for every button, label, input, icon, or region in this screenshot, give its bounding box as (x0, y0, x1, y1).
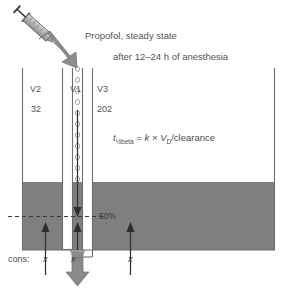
compartment-label-v1: V1 (70, 85, 81, 94)
equation-times: × (152, 132, 158, 143)
column-gap-v1-v3 (82, 182, 92, 257)
compartment-volume-v3: 202 (97, 105, 112, 114)
concentration-row-label: cons: (8, 255, 30, 264)
figure-canvas: Propofol, steady state after 12–24 h of … (0, 0, 288, 288)
figure-subtitle: after 12–24 h of anesthesia (113, 52, 228, 62)
equation-equals: = (136, 132, 142, 143)
threshold-label: 50% (99, 212, 116, 221)
compartment-volume-v2: 32 (31, 105, 41, 114)
down-arrow-icon (66, 258, 89, 286)
column-gap-v2-v1 (62, 182, 72, 249)
equation-k: k (145, 132, 150, 143)
halflife-equation: t½beta = k × VD/clearance (113, 133, 215, 145)
syringe-plunger-rod (17, 9, 26, 17)
concentration-value-v2: x (43, 255, 48, 264)
syringe-barrel (23, 14, 52, 41)
compartment-label-v3: V3 (97, 85, 108, 94)
equation-tail: /clearance (171, 132, 215, 143)
figure-title: Propofol, steady state (85, 31, 177, 41)
concentration-value-v3: x (128, 255, 133, 264)
drug-droplet-icon (75, 77, 79, 82)
clearance-arrow-cap (70, 250, 85, 252)
compartment-label-v2: V2 (30, 85, 41, 94)
drug-droplet-icon (75, 99, 79, 104)
solution-fill-layer (22, 182, 275, 257)
syringe-group (13, 5, 77, 68)
concentration-value-v1: x (71, 255, 76, 264)
equation-t-subscript: ½beta (116, 138, 134, 145)
